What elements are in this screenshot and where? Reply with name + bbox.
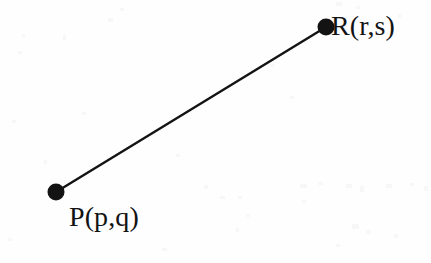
point-p-label: P(p,q): [69, 203, 139, 231]
point-p-dot: [48, 184, 65, 201]
point-r-label: R(r,s): [331, 12, 395, 40]
segment-pr: [56, 27, 326, 192]
figure-canvas: R(r,s) P(p,q): [0, 0, 431, 263]
